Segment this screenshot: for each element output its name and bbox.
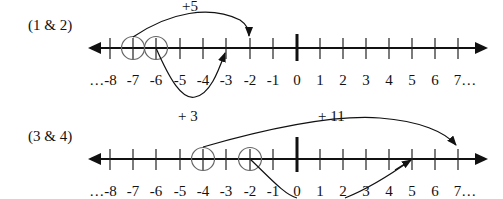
jump-label: +5 [182,0,198,14]
left-arrow-icon [88,153,101,165]
svg-text:3: 3 [362,72,370,88]
left-arrow-icon [88,42,101,54]
svg-text:1: 1 [316,72,324,88]
svg-text:…-8: …-8 [89,183,117,199]
right-arrow-icon [475,42,488,54]
svg-text:6: 6 [431,183,439,199]
svg-text:7…: 7… [454,183,477,199]
number-line-2: (3 & 4) + 3 + 11 …-8 -7 -6 -5 -4 -3 [28,108,488,199]
svg-text:-7: -7 [127,72,140,88]
svg-text:2: 2 [339,183,347,199]
number-line-1: (1 & 2) +5 …-8 -7 -6 -5 -4 [28,0,488,97]
svg-text:0: 0 [293,72,301,88]
svg-text:1: 1 [316,183,324,199]
svg-text:-3: -3 [220,183,233,199]
number-line-diagram: (1 & 2) +5 …-8 -7 -6 -5 -4 [0,0,503,199]
svg-text:-1: -1 [267,72,280,88]
svg-text:3: 3 [362,183,370,199]
svg-text:-4: -4 [197,72,210,88]
svg-text:-2: -2 [244,183,257,199]
svg-text:-2: -2 [244,72,257,88]
svg-text:-3: -3 [220,72,233,88]
jump-label: + 3 [178,108,198,124]
svg-text:4: 4 [385,72,393,88]
jump-arc-lower [156,48,225,97]
svg-text:6: 6 [431,72,439,88]
svg-text:-4: -4 [197,183,210,199]
jump-arc-upper [133,12,249,37]
svg-text:7…: 7… [454,72,477,88]
svg-text:5: 5 [408,72,416,88]
svg-text:5: 5 [408,183,416,199]
svg-text:-5: -5 [174,183,187,199]
tick-labels: …-8 -7 -6 -5 -4 -3 -2 -1 0 1 2 3 4 5 6 7… [89,183,476,199]
svg-text:-7: -7 [127,183,140,199]
svg-text:…-8: …-8 [89,72,117,88]
svg-text:-6: -6 [150,183,163,199]
problem-label-2: (3 & 4) [28,128,72,145]
jump-label: + 11 [318,108,345,124]
svg-text:0: 0 [293,183,301,199]
svg-text:-5: -5 [174,72,187,88]
right-arrow-icon [475,153,488,165]
svg-text:4: 4 [385,183,393,199]
tick-labels: …-8 -7 -6 -5 -4 -3 -2 -1 0 1 2 3 4 5 6 7… [89,72,476,88]
svg-text:2: 2 [339,72,347,88]
svg-text:-1: -1 [267,183,280,199]
svg-text:-6: -6 [150,72,163,88]
problem-label-1: (1 & 2) [28,17,72,34]
